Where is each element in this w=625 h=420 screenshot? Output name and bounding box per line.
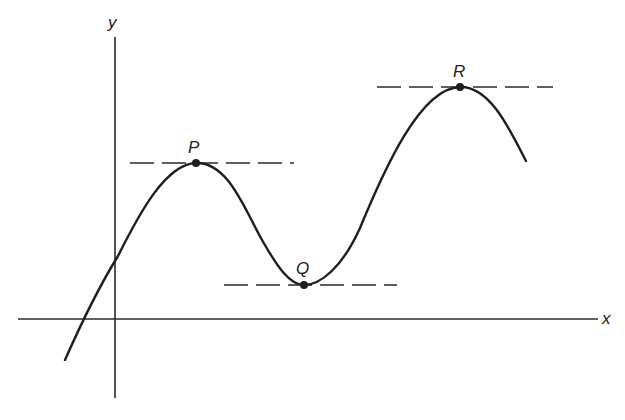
y-axis-label: y bbox=[107, 13, 118, 32]
point-label-q: Q bbox=[296, 259, 309, 278]
point-r bbox=[456, 83, 464, 91]
point-label-r: R bbox=[453, 62, 465, 81]
extrema-diagram: x y P Q R bbox=[0, 0, 625, 420]
point-label-p: P bbox=[188, 138, 200, 157]
x-axis-label: x bbox=[601, 309, 611, 328]
point-q bbox=[300, 281, 308, 289]
point-p bbox=[192, 159, 200, 167]
